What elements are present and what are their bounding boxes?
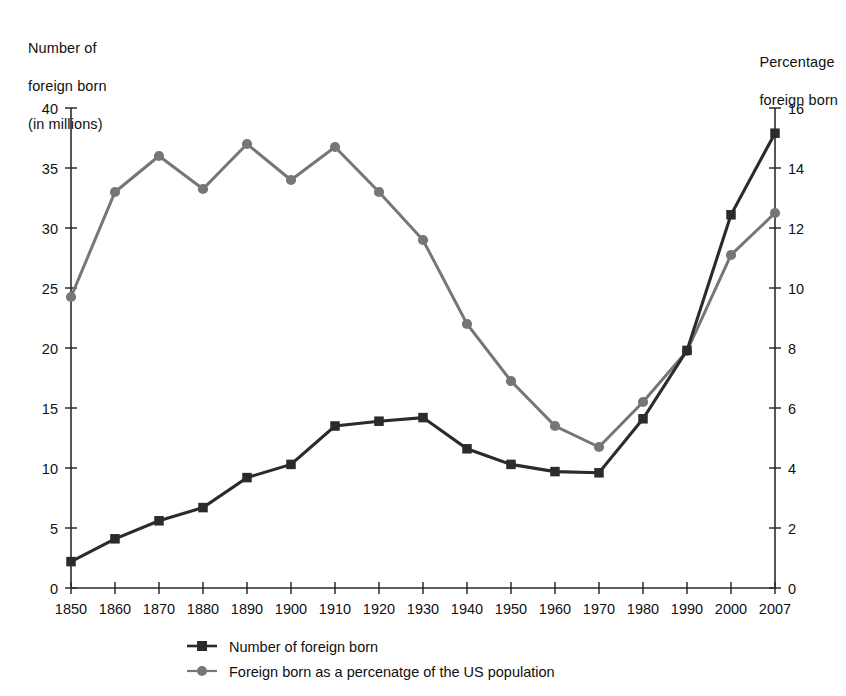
x-axis-tick-label: 1980 — [627, 601, 659, 617]
data-point-marker — [770, 208, 780, 218]
data-point-marker — [198, 184, 208, 194]
data-point-marker — [462, 444, 472, 454]
x-axis-tick-label: 1920 — [363, 601, 395, 617]
left-axis-tick-label: 30 — [42, 221, 58, 237]
right-axis-title: Percentage foreign born — [759, 34, 838, 129]
right-axis-title-line-1: Percentage — [759, 53, 838, 72]
right-axis-tick-label: 8 — [788, 341, 796, 357]
right-axis-tick-label: 10 — [788, 281, 804, 297]
left-axis-tick-label: 25 — [42, 281, 58, 297]
data-point-marker — [506, 460, 516, 470]
x-axis-tick-label: 1930 — [407, 601, 439, 617]
x-axis-tick-label: 1970 — [583, 601, 615, 617]
x-axis: 1850186018701880189019001910192019301940… — [55, 582, 791, 617]
data-point-marker — [242, 139, 252, 149]
x-axis-tick-label: 1870 — [143, 601, 175, 617]
data-point-marker — [638, 397, 648, 407]
data-point-marker — [66, 557, 76, 567]
right-axis-tick-label: 14 — [788, 161, 804, 177]
series-line-percentage-foreign-born — [71, 144, 775, 447]
data-point-marker — [550, 467, 560, 477]
left-axis-tick-label: 15 — [42, 401, 58, 417]
data-point-marker — [154, 151, 164, 161]
x-axis-tick-label: 1990 — [671, 601, 703, 617]
data-point-marker — [110, 534, 120, 544]
x-axis-tick-label: 1900 — [275, 601, 307, 617]
left-axis-tick-label: 20 — [42, 341, 58, 357]
data-point-marker — [594, 468, 604, 478]
left-axis-tick-label: 0 — [50, 581, 58, 597]
x-axis-tick-label: 1940 — [451, 601, 483, 617]
data-point-marker — [506, 376, 516, 386]
left-axis-tick-label: 10 — [42, 461, 58, 477]
data-point-marker — [638, 414, 648, 424]
data-point-marker — [286, 175, 296, 185]
chart-legend: Number of foreign bornForeign born as a … — [187, 639, 555, 680]
data-series-group — [66, 128, 780, 566]
right-axis-tick-label: 12 — [788, 221, 804, 237]
data-point-marker — [198, 503, 208, 512]
data-point-marker — [682, 346, 692, 356]
data-point-marker — [286, 460, 296, 470]
series-line-number-foreign-born — [71, 133, 775, 561]
legend-marker — [197, 641, 207, 651]
data-point-marker — [242, 473, 252, 483]
data-point-marker — [374, 187, 384, 197]
right-axis-tick-label: 0 — [788, 581, 796, 597]
left-axis: 0510152025303540 — [42, 101, 77, 597]
data-point-marker — [330, 421, 340, 431]
legend-item-label: Foreign born as a percenatge of the US p… — [229, 664, 555, 680]
data-point-marker — [418, 413, 428, 423]
data-point-marker — [770, 128, 780, 138]
right-axis-title-line-2: foreign born — [759, 91, 838, 110]
x-axis-tick-label: 1880 — [187, 601, 219, 617]
data-point-marker — [550, 421, 560, 431]
left-axis-title-line-1: Number of — [28, 39, 107, 58]
left-axis-title-line-3: (in millions) — [28, 115, 107, 134]
chart-plot-area: 0510152025303540 0246810121416 185018601… — [0, 0, 846, 696]
data-point-marker — [726, 210, 736, 220]
data-point-marker — [418, 235, 428, 245]
x-axis-tick-label: 1950 — [495, 601, 527, 617]
x-axis-tick-label: 1890 — [231, 601, 263, 617]
data-point-marker — [330, 142, 340, 152]
x-axis-tick-label: 1910 — [319, 601, 351, 617]
data-point-marker — [726, 250, 736, 260]
x-axis-tick-label: 1850 — [55, 601, 87, 617]
x-axis-tick-label: 2007 — [759, 601, 791, 617]
x-axis-tick-label: 1960 — [539, 601, 571, 617]
left-axis-tick-label: 5 — [50, 521, 58, 537]
x-axis-tick-label: 2000 — [715, 601, 747, 617]
left-axis-title-line-2: foreign born — [28, 77, 107, 96]
right-axis-tick-label: 4 — [788, 461, 796, 477]
chart-container: Number of foreign born (in millions) Per… — [0, 0, 846, 696]
left-axis-title: Number of foreign born (in millions) — [28, 20, 107, 153]
data-point-marker — [462, 319, 472, 329]
legend-marker — [197, 666, 207, 676]
data-point-marker — [374, 416, 384, 426]
left-axis-tick-label: 35 — [42, 161, 58, 177]
right-axis-tick-label: 2 — [788, 521, 796, 537]
right-axis-tick-label: 6 — [788, 401, 796, 417]
data-point-marker — [594, 442, 604, 452]
data-point-marker — [154, 516, 164, 526]
legend-item-label: Number of foreign born — [229, 639, 378, 655]
x-axis-tick-label: 1860 — [99, 601, 131, 617]
data-point-marker — [110, 187, 120, 197]
data-point-marker — [66, 292, 76, 302]
right-axis: 0246810121416 — [769, 101, 804, 597]
